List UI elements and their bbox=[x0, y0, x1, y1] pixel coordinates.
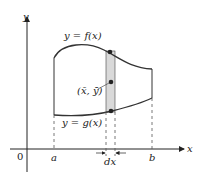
x-axis-label: x bbox=[187, 143, 193, 154]
centroid-label: (x̄, ȳ) bbox=[77, 85, 103, 96]
lower-point bbox=[109, 109, 114, 114]
y-axis-label: y bbox=[22, 11, 29, 22]
centroid-point bbox=[109, 80, 114, 85]
dx-label: dx bbox=[104, 156, 116, 167]
f-curve-label: y = f(x) bbox=[63, 30, 102, 41]
upper-point bbox=[108, 50, 113, 55]
origin-label: 0 bbox=[17, 151, 23, 162]
centroid-region-diagram: y x 0 a b dx y = f(x) y = g(x) (x̄, ȳ) bbox=[0, 0, 202, 172]
lower-curve-g bbox=[54, 98, 152, 116]
upper-curve-f bbox=[54, 45, 152, 69]
tick-b-label: b bbox=[149, 152, 155, 163]
g-curve-label: y = g(x) bbox=[61, 117, 102, 128]
tick-a-label: a bbox=[51, 152, 57, 163]
